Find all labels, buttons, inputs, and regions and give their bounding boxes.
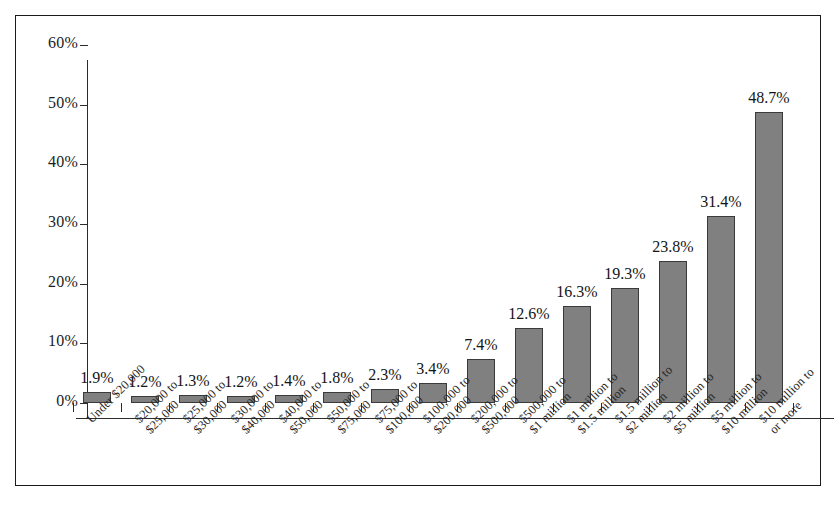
y-axis-tick-mark bbox=[80, 343, 88, 344]
bar-value-label: 7.4% bbox=[464, 336, 497, 354]
y-axis-tick-mark bbox=[80, 45, 88, 46]
y-axis-tick-label: 50% bbox=[20, 94, 78, 112]
y-axis-tick-label: 40% bbox=[20, 153, 78, 171]
y-axis-tick-mark bbox=[80, 164, 88, 165]
bar-value-label: 31.4% bbox=[700, 193, 741, 211]
y-axis-tick-label: 30% bbox=[20, 213, 78, 231]
y-axis-tick-label: 60% bbox=[20, 34, 78, 52]
bar-value-label: 19.3% bbox=[604, 265, 645, 283]
bar-value-label: 1.4% bbox=[272, 372, 305, 390]
bar-value-label: 12.6% bbox=[508, 305, 549, 323]
figure-border: 0%10%20%30%40%50%60% 1.9%1.2%1.3%1.2%1.4… bbox=[15, 15, 821, 486]
bar bbox=[755, 112, 783, 403]
y-axis-tick-mark bbox=[80, 105, 88, 106]
y-axis-tick-mark bbox=[80, 284, 88, 285]
bar-value-label: 3.4% bbox=[416, 360, 449, 378]
bar-value-label: 2.3% bbox=[368, 366, 401, 384]
y-axis-line bbox=[87, 60, 88, 419]
bar-value-label: 16.3% bbox=[556, 283, 597, 301]
y-axis-tick-label: 10% bbox=[20, 332, 78, 350]
bar-value-label: 1.9% bbox=[80, 369, 113, 387]
y-axis-tick-label: 20% bbox=[20, 273, 78, 291]
y-axis-tick-mark bbox=[80, 403, 88, 404]
bar-value-label: 23.8% bbox=[652, 238, 693, 256]
x-axis-tick-mark bbox=[73, 403, 74, 412]
x-axis-tick-mark bbox=[121, 403, 122, 412]
chart-figure: 0%10%20%30%40%50%60% 1.9%1.2%1.3%1.2%1.4… bbox=[0, 0, 837, 508]
y-axis-tick-label: 0% bbox=[20, 392, 78, 410]
y-axis-tick-mark bbox=[80, 224, 88, 225]
y-axis-tick-labels: 0%10%20%30%40%50%60% bbox=[16, 16, 78, 485]
bar-value-label: 1.8% bbox=[320, 369, 353, 387]
bar-value-label: 48.7% bbox=[748, 89, 789, 107]
